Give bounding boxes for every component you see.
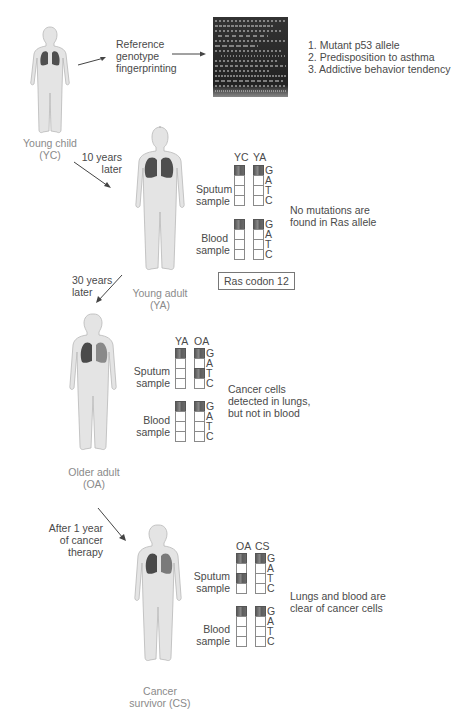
sputum-label-line1: Sputum bbox=[190, 570, 230, 582]
body-silhouette bbox=[31, 27, 70, 133]
older-adult-figure bbox=[68, 312, 120, 464]
finding-item: 3. Addictive behavior tendency bbox=[308, 63, 450, 75]
gel-lane-oa bbox=[236, 606, 247, 647]
base-label-c: C bbox=[267, 636, 275, 647]
young-child-label-line1: Young child bbox=[0, 137, 100, 149]
base-label-c: C bbox=[265, 195, 273, 206]
gel-lane-yc bbox=[234, 165, 245, 206]
transition-after-therapy: After 1 year of cancer therapy bbox=[40, 522, 103, 558]
body-silhouette bbox=[136, 127, 184, 270]
gel-lane-oa bbox=[194, 348, 205, 389]
note-line: but not in blood bbox=[228, 407, 310, 419]
sputum-label-line2: sample bbox=[130, 377, 170, 389]
finding-item: 1. Mutant p53 allele bbox=[308, 39, 450, 51]
panel3-col-label-2: CS bbox=[255, 540, 270, 552]
fingerprinting-label-line1: Reference bbox=[116, 38, 177, 50]
sputum-label-line2: sample bbox=[196, 195, 228, 207]
blood-label-line1: Blood bbox=[190, 623, 230, 635]
note-line: detected in lungs, bbox=[228, 395, 310, 407]
gel-lane-cs bbox=[255, 606, 266, 647]
transition-line: After 1 year bbox=[40, 522, 103, 534]
gel-empty-c bbox=[234, 195, 245, 206]
gel-empty-c bbox=[175, 431, 186, 442]
gel-empty-c bbox=[194, 431, 205, 442]
note-line: Cancer cells bbox=[228, 383, 310, 395]
sputum-label-line2: sample bbox=[190, 582, 230, 594]
gel-lane-cs bbox=[255, 553, 266, 594]
gel-empty-c bbox=[236, 583, 247, 594]
fingerprint-bands bbox=[213, 17, 288, 97]
fingerprinting-label-line2: genotype bbox=[116, 50, 177, 62]
dna-fingerprint-image bbox=[213, 17, 288, 97]
sputum-label-line1: Sputum bbox=[130, 365, 170, 377]
arrow-oa-to-cs bbox=[98, 508, 130, 544]
cancer-survivor-label-line2: survivor (CS) bbox=[110, 697, 210, 709]
panel1-sputum-label: Sputum sample bbox=[196, 183, 228, 207]
fingerprint-findings: 1. Mutant p53 allele 2. Predisposition t… bbox=[308, 39, 450, 75]
panel1-note: No mutations are found in Ras allele bbox=[290, 204, 376, 228]
panel1-col-label-2: YA bbox=[253, 151, 266, 163]
note-line: No mutations are bbox=[290, 204, 376, 216]
fingerprinting-label: Reference genotype fingerprinting bbox=[116, 38, 177, 74]
sputum-label-line1: Sputum bbox=[196, 183, 228, 195]
panel1-col-label-1: YC bbox=[234, 151, 249, 163]
arrow-yc-to-ya bbox=[74, 162, 114, 192]
gel-empty-c bbox=[175, 378, 186, 389]
gel-empty-c bbox=[234, 249, 245, 260]
older-adult-label-line2: (OA) bbox=[44, 478, 144, 490]
panel1-blood-label: Blood sample bbox=[196, 232, 228, 256]
transition-line: therapy bbox=[40, 546, 103, 558]
gel-lane-yc bbox=[234, 219, 245, 260]
gel-lane-ya bbox=[253, 219, 264, 260]
blood-label-line2: sample bbox=[190, 635, 230, 647]
gel-empty-c bbox=[253, 249, 264, 260]
panel3-blood-label: Blood sample bbox=[190, 623, 230, 647]
panel2-col-label-2: OA bbox=[194, 335, 209, 347]
note-line: Lungs and blood are bbox=[290, 590, 386, 602]
gel-lane-oa bbox=[236, 553, 247, 594]
gel-lane-ya bbox=[175, 401, 186, 442]
cancer-survivor-figure bbox=[133, 523, 185, 675]
arrow-to-fingerprinting bbox=[78, 55, 108, 67]
body-silhouette bbox=[135, 525, 181, 661]
gel-empty-c bbox=[255, 583, 266, 594]
gel-lane-ya bbox=[175, 348, 186, 389]
base-label-c: C bbox=[206, 378, 214, 389]
finding-item: 2. Predisposition to asthma bbox=[308, 51, 450, 63]
blood-label-line1: Blood bbox=[196, 232, 228, 244]
body-silhouette bbox=[70, 314, 116, 450]
base-label-c: C bbox=[267, 583, 275, 594]
panel3-col-label-1: OA bbox=[236, 540, 251, 552]
panel2-sputum-label: Sputum sample bbox=[130, 365, 170, 389]
cancer-survivor-label-line1: Cancer bbox=[110, 685, 210, 697]
young-adult-figure bbox=[128, 125, 190, 285]
gel-empty-c bbox=[253, 195, 264, 206]
base-label-c: C bbox=[206, 431, 214, 442]
ras-codon-label: Ras codon 12 bbox=[218, 272, 295, 290]
note-line: found in Ras allele bbox=[290, 216, 376, 228]
panel2-note: Cancer cells detected in lungs, but not … bbox=[228, 383, 310, 419]
young-child-figure bbox=[27, 25, 73, 137]
blood-label-line2: sample bbox=[196, 244, 228, 256]
gel-empty-c bbox=[236, 636, 247, 647]
panel2-col-label-1: YA bbox=[175, 335, 188, 347]
arrow-ya-to-oa bbox=[94, 275, 126, 305]
transition-line: of cancer bbox=[40, 534, 103, 546]
base-label-c: C bbox=[265, 249, 273, 260]
gel-empty-c bbox=[194, 378, 205, 389]
arrow-to-fingerprint-image bbox=[172, 50, 208, 58]
gel-empty-c bbox=[255, 636, 266, 647]
panel3-sputum-label: Sputum sample bbox=[190, 570, 230, 594]
panel3-note: Lungs and blood are clear of cancer cell… bbox=[290, 590, 386, 614]
older-adult-label-line1: Older adult bbox=[44, 466, 144, 478]
gel-lane-oa bbox=[194, 401, 205, 442]
blood-label-line1: Blood bbox=[130, 414, 170, 426]
gel-lane-ya bbox=[253, 165, 264, 206]
panel2-blood-label: Blood sample bbox=[130, 414, 170, 438]
fingerprinting-label-line3: fingerprinting bbox=[116, 62, 177, 74]
note-line: clear of cancer cells bbox=[290, 602, 386, 614]
older-adult-label: Older adult (OA) bbox=[44, 466, 144, 490]
blood-label-line2: sample bbox=[130, 426, 170, 438]
cancer-survivor-label: Cancer survivor (CS) bbox=[110, 685, 210, 709]
